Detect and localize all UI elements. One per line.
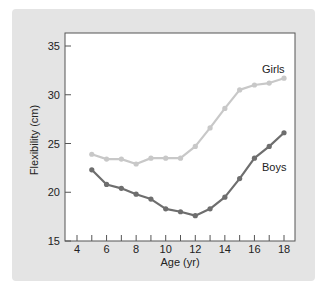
data-point <box>134 161 139 166</box>
data-point <box>207 125 212 130</box>
data-point <box>119 186 124 191</box>
data-point <box>237 87 242 92</box>
x-tick-label: 14 <box>219 243 231 255</box>
y-tick-label: 30 <box>48 89 60 101</box>
data-point <box>163 206 168 211</box>
y-axis-title: Flexibility (cm) <box>28 105 40 175</box>
data-point <box>104 157 109 162</box>
data-point <box>104 182 109 187</box>
x-tick-label: 16 <box>248 243 260 255</box>
data-point <box>193 144 198 149</box>
x-axis-title: Age (yr) <box>160 256 199 268</box>
data-point <box>252 82 257 87</box>
y-tick-label: 35 <box>48 40 60 52</box>
data-point <box>267 144 272 149</box>
x-tick-label: 4 <box>74 243 80 255</box>
series-label-girls: Girls <box>262 63 285 75</box>
data-point <box>237 176 242 181</box>
data-point <box>89 167 94 172</box>
data-point <box>134 192 139 197</box>
data-point <box>148 156 153 161</box>
data-point <box>281 76 286 81</box>
series-label-boys: Boys <box>262 161 287 173</box>
x-tick-label: 12 <box>189 243 201 255</box>
data-point <box>178 209 183 214</box>
data-point <box>163 156 168 161</box>
data-point <box>193 213 198 218</box>
data-point <box>89 152 94 157</box>
x-tick-label: 6 <box>104 243 110 255</box>
data-point <box>281 130 286 135</box>
data-point <box>178 156 183 161</box>
y-tick-label: 15 <box>48 235 60 247</box>
x-tick-label: 8 <box>133 243 139 255</box>
y-tick-label: 25 <box>48 138 60 150</box>
line-chart: 1520253035 4681012141618 Age (yr) Flexib… <box>0 0 325 289</box>
x-tick-label: 18 <box>278 243 290 255</box>
data-point <box>222 106 227 111</box>
x-tick-label: 10 <box>160 243 172 255</box>
data-point <box>252 156 257 161</box>
data-point <box>119 157 124 162</box>
data-point <box>148 196 153 201</box>
data-point <box>222 195 227 200</box>
data-point <box>207 206 212 211</box>
data-point <box>267 80 272 85</box>
y-tick-label: 20 <box>48 186 60 198</box>
